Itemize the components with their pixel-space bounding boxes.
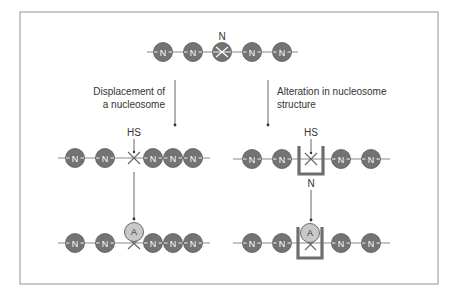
- nucleosome: N: [273, 43, 292, 62]
- nucleosome: N: [362, 234, 381, 253]
- nucleosome-label: N: [279, 155, 286, 165]
- nucleosome-label: N: [249, 155, 256, 165]
- nucleosome: N: [144, 234, 163, 253]
- nucleosome-label: N: [279, 48, 286, 58]
- nucleosome-label: N: [170, 154, 177, 164]
- nucleosome: N: [144, 149, 163, 168]
- nucleosome: N: [362, 150, 381, 169]
- nucleosome: N: [96, 234, 115, 253]
- nucleosome: N: [66, 234, 85, 253]
- right-box-label: N: [307, 178, 314, 189]
- chromatin-remodeling-diagram: NNNN N Displacement of a nucleosome HS N…: [0, 0, 458, 296]
- nucleosome: N: [273, 234, 292, 253]
- nucleosome-label: N: [338, 239, 345, 249]
- nucleosome-label: N: [190, 48, 197, 58]
- nucleosome: N: [184, 234, 203, 253]
- nucleosome-label: N: [368, 239, 375, 249]
- nucleosome-label: N: [160, 48, 167, 58]
- nucleosome-label: N: [368, 155, 375, 165]
- right-caption-line1: Alteration in nucleosome: [277, 86, 387, 97]
- nucleosome-label: N: [279, 239, 286, 249]
- activator-protein: A: [301, 224, 320, 243]
- nucleosome-label: N: [72, 239, 79, 249]
- nucleosome-label: N: [150, 239, 157, 249]
- arrowhead-icon: [133, 218, 136, 221]
- nucleosome-label: N: [102, 154, 109, 164]
- left-caption-line2: a nucleosome: [103, 99, 166, 110]
- arrowhead-icon: [174, 124, 177, 127]
- left-caption-line1: Displacement of: [93, 86, 165, 97]
- top-nucleosome-label: N: [218, 31, 225, 42]
- nucleosome: N: [243, 150, 262, 169]
- nucleosome-label: N: [338, 155, 345, 165]
- right-caption-line2: structure: [277, 99, 316, 110]
- nucleosome: N: [96, 149, 115, 168]
- arrowhead-icon: [310, 152, 312, 154]
- crossed-nucleosome: [213, 43, 232, 62]
- nucleosome-label: N: [190, 239, 197, 249]
- arrowhead-icon: [267, 124, 270, 127]
- nucleosome: N: [184, 43, 203, 62]
- nucleosome: N: [243, 234, 262, 253]
- nucleosome: N: [154, 43, 173, 62]
- nucleosome: N: [243, 43, 262, 62]
- nucleosome: N: [164, 149, 183, 168]
- nucleosome: N: [184, 149, 203, 168]
- arrowhead-icon: [133, 151, 135, 153]
- nucleosome: N: [332, 150, 351, 169]
- nucleosome-label: N: [249, 239, 256, 249]
- activator-label: A: [307, 228, 313, 238]
- nucleosome: N: [66, 149, 85, 168]
- arrowhead-icon: [310, 219, 313, 222]
- nucleosome-label: N: [170, 239, 177, 249]
- left-hs-label: HS: [127, 127, 141, 138]
- nucleosome: N: [164, 234, 183, 253]
- nucleosome-label: N: [102, 239, 109, 249]
- nucleosome-label: N: [249, 48, 256, 58]
- nucleosome-label: N: [72, 154, 79, 164]
- nucleosome: N: [273, 150, 292, 169]
- activator-label: A: [131, 227, 137, 237]
- nucleosome: N: [332, 234, 351, 253]
- right-hs-label: HS: [304, 127, 318, 138]
- nucleosome-label: N: [150, 154, 157, 164]
- activator-protein: A: [125, 223, 144, 242]
- nucleosome-label: N: [190, 154, 197, 164]
